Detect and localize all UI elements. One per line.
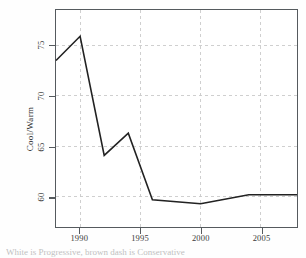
y-tick-label: 75 — [36, 40, 46, 49]
data-series-line — [56, 10, 297, 227]
x-tick-mark — [140, 228, 141, 234]
y-axis-title: Cool/Warm — [25, 107, 35, 151]
figure-caption: White is Progressive, brown dash is Cons… — [6, 247, 300, 258]
y-tick-label: 60 — [36, 193, 46, 202]
plot-area — [55, 9, 298, 228]
chart-figure: Cool/Warm 60657075 1990199520002005 Whit… — [0, 0, 306, 258]
x-tick-label: 2005 — [253, 233, 271, 243]
x-tick-mark — [201, 228, 202, 234]
y-tick-label: 65 — [36, 142, 46, 151]
x-tick-mark — [79, 228, 80, 234]
x-tick-label: 1995 — [131, 233, 149, 243]
y-tick-label: 70 — [36, 91, 46, 100]
x-tick-mark — [262, 228, 263, 234]
x-tick-label: 2000 — [192, 233, 210, 243]
x-tick-label: 1990 — [70, 233, 88, 243]
